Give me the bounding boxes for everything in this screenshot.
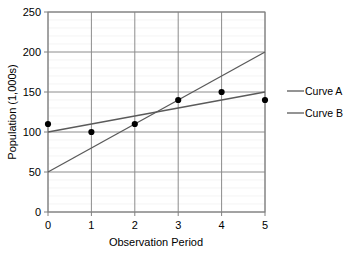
legend-label: Curve A bbox=[305, 85, 342, 97]
x-axis-title: Observation Period bbox=[109, 236, 203, 248]
y-tick-label: 100 bbox=[23, 126, 41, 138]
y-tick-label: 0 bbox=[35, 206, 41, 218]
y-tick-label: 50 bbox=[29, 166, 41, 178]
data-point bbox=[219, 89, 225, 95]
y-tick-label: 250 bbox=[23, 6, 41, 18]
data-point bbox=[88, 129, 94, 135]
x-tick-label: 5 bbox=[262, 219, 268, 231]
chart-figure: 250 200 150 100 50 0 0 1 2 3 4 5 Observa… bbox=[0, 0, 358, 259]
y-tick-label: 150 bbox=[23, 86, 41, 98]
x-tick-label: 2 bbox=[132, 219, 138, 231]
x-tick-label: 0 bbox=[45, 219, 51, 231]
data-point bbox=[175, 97, 181, 103]
chart-canvas: 250 200 150 100 50 0 0 1 2 3 4 5 Observa… bbox=[0, 0, 358, 259]
y-axis-title: Population (1,000s) bbox=[6, 64, 18, 159]
x-tick-label: 3 bbox=[175, 219, 181, 231]
data-point bbox=[132, 121, 138, 127]
x-tick-label: 4 bbox=[219, 219, 225, 231]
legend-label: Curve B bbox=[305, 107, 343, 119]
x-tick-label: 1 bbox=[88, 219, 94, 231]
data-point bbox=[262, 97, 268, 103]
y-tick-label: 200 bbox=[23, 46, 41, 58]
data-point bbox=[45, 121, 51, 127]
